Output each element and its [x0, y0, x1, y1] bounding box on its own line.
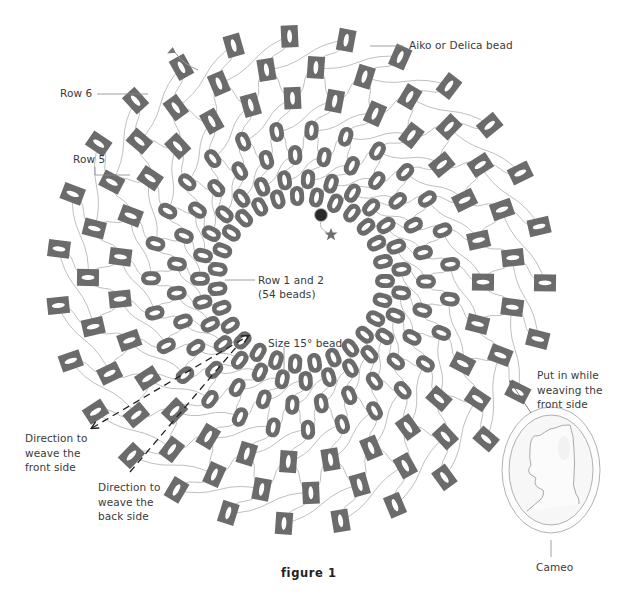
round-bead [229, 159, 251, 183]
round-bead [298, 371, 313, 392]
aiko-bead [307, 56, 325, 79]
round-bead [254, 388, 273, 411]
round-bead [144, 234, 167, 252]
aiko-bead [134, 365, 162, 391]
round-bead [415, 188, 439, 211]
label-cameo: Cameo [536, 560, 573, 575]
round-bead [365, 168, 388, 192]
round-bead [184, 336, 208, 359]
aiko-bead [281, 25, 299, 48]
aiko-bead [122, 401, 150, 428]
aiko-bead [162, 94, 189, 122]
round-bead [308, 186, 325, 208]
aiko-bead [118, 442, 146, 470]
label-size15-bead: Size 15° bead [268, 336, 342, 351]
round-bead [364, 233, 388, 254]
round-bead [366, 139, 388, 163]
aiko-bead [525, 328, 550, 350]
round-bead [325, 191, 346, 215]
aiko-bead [77, 269, 99, 286]
aiko-bead [109, 247, 133, 267]
thread-to-star [320, 221, 328, 233]
aiko-bead [81, 316, 106, 337]
round-bead [175, 170, 199, 194]
aiko-bead [320, 447, 340, 471]
label-direction-back: Direction to weave the back side [98, 480, 161, 524]
aiko-bead [240, 92, 262, 118]
aiko-bead [96, 361, 123, 386]
round-bead [207, 261, 229, 277]
aiko-bead [363, 100, 387, 127]
aiko-bead [472, 425, 500, 452]
cameo [502, 407, 600, 533]
round-bead [141, 271, 161, 285]
aiko-bead [126, 128, 154, 155]
round-bead [185, 199, 209, 222]
aiko-bead [98, 170, 125, 195]
round-bead [252, 175, 273, 199]
aiko-bead [117, 204, 144, 228]
aiko-bead [472, 273, 494, 290]
round-bead [372, 253, 395, 271]
round-bead [371, 291, 394, 309]
round-bead [391, 378, 415, 402]
aiko-bead [283, 87, 301, 110]
round-bead [219, 222, 243, 245]
round-bead [336, 125, 355, 148]
aiko-bead [383, 492, 407, 519]
label-put-in: Put in while weaving the front side [537, 368, 603, 412]
round-bead [364, 399, 386, 423]
round-bead [431, 220, 455, 240]
round-bead [413, 353, 437, 376]
aiko-bead [500, 297, 524, 317]
thread-segment [228, 493, 311, 513]
aiko-bead [164, 476, 190, 504]
round-bead [264, 416, 281, 438]
round-bead [416, 274, 436, 288]
round-bead [249, 360, 270, 384]
aiko-bead [302, 481, 320, 504]
round-bead [333, 413, 352, 436]
aiko-bead [195, 423, 221, 451]
round-bead [154, 335, 178, 356]
aiko-bead [431, 464, 458, 492]
round-bead [354, 215, 378, 239]
round-bead [230, 186, 253, 210]
aiko-bead [275, 512, 293, 535]
round-bead [211, 240, 235, 260]
aiko-bead [451, 188, 478, 213]
round-bead [372, 325, 396, 348]
round-bead [199, 223, 223, 245]
thread-segment [267, 40, 347, 70]
round-bead [358, 342, 382, 366]
round-bead [386, 189, 410, 213]
thread-segment [513, 258, 538, 339]
round-bead [218, 314, 242, 337]
aiko-bead [58, 349, 84, 372]
aiko-bead [504, 379, 531, 404]
aiko-bead [169, 54, 195, 82]
aiko-bead [501, 248, 525, 267]
round-bead [393, 160, 417, 184]
aiko-bead [398, 121, 425, 149]
round-bead [353, 323, 377, 347]
round-bead [204, 176, 228, 200]
round-bead [166, 256, 188, 272]
aiko-bead [199, 108, 225, 136]
label-row6: Row 6 [60, 86, 92, 101]
round-bead [190, 272, 210, 286]
aiko-bead [534, 274, 556, 291]
aiko-bead [256, 58, 276, 82]
round-bead [315, 146, 332, 168]
thread-segment [72, 194, 88, 278]
aiko-bead [46, 296, 70, 315]
aiko-bead [466, 152, 494, 178]
round-bead [257, 148, 276, 171]
round-bead [364, 308, 388, 330]
thread-segment [177, 486, 262, 492]
label-row1-2: Row 1 and 2 [258, 273, 324, 288]
round-bead [359, 195, 383, 219]
aiko-bead [487, 343, 514, 367]
round-bead [341, 181, 363, 205]
round-bead [313, 392, 330, 414]
